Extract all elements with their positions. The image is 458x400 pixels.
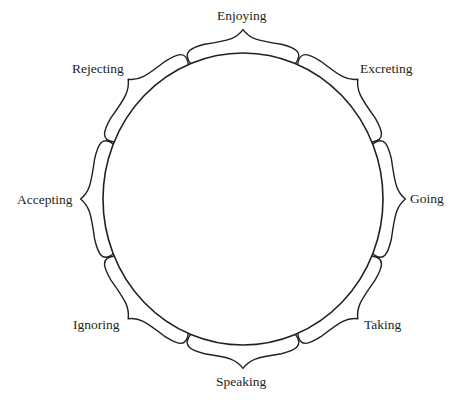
label-ignoring: Ignoring — [73, 318, 120, 332]
central-circle — [103, 53, 383, 345]
label-enjoying: Enjoying — [217, 9, 267, 23]
label-rejecting: Rejecting — [72, 62, 124, 76]
petal-braces — [81, 30, 406, 369]
label-excreting: Excreting — [360, 62, 412, 76]
label-taking: Taking — [364, 318, 401, 332]
label-speaking: Speaking — [216, 375, 266, 389]
label-going: Going — [410, 192, 444, 206]
label-accepting: Accepting — [17, 193, 72, 207]
